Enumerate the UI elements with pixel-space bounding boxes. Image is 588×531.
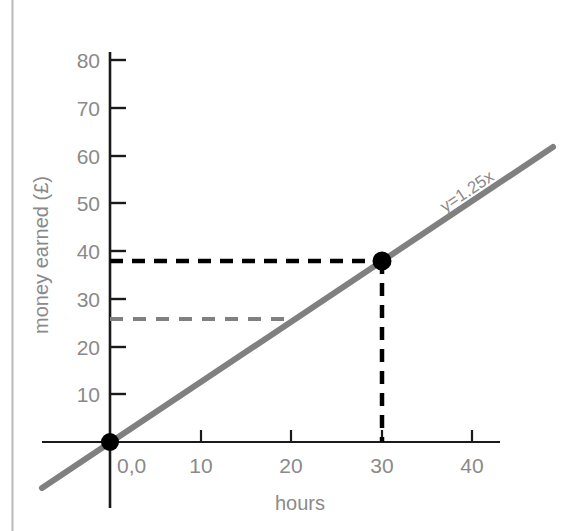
x-tick-label-40: 40: [460, 454, 483, 477]
y-tick-label-40: 40: [77, 240, 100, 263]
x-tick-label-20: 20: [279, 454, 302, 477]
x-axis-ticks: [201, 430, 472, 442]
reading-point-marker: [373, 252, 392, 271]
y-tick-label-20: 20: [77, 336, 100, 359]
y-axis-title: money earned (£): [30, 176, 52, 334]
x-axis-title: hours: [275, 492, 325, 514]
y-tick-label-70: 70: [77, 97, 100, 120]
y-tick-label-80: 80: [77, 49, 100, 72]
y-tick-label-60: 60: [77, 145, 100, 168]
chart-canvas: 80 70 60 50 40 30 20 10 10 20 30 40 0,0: [0, 0, 588, 531]
origin-label: 0,0: [117, 454, 146, 477]
y-axis-ticks: [110, 60, 126, 394]
x-axis-tick-labels: 10 20 30 40: [189, 454, 483, 477]
y-tick-label-10: 10: [77, 383, 100, 406]
x-tick-label-30: 30: [370, 454, 393, 477]
x-tick-label-10: 10: [189, 454, 212, 477]
y-tick-label-50: 50: [77, 192, 100, 215]
y-axis-tick-labels: 80 70 60 50 40 30 20 10: [77, 49, 100, 406]
line-chart-figure: 80 70 60 50 40 30 20 10 10 20 30 40 0,0: [0, 0, 588, 531]
origin-point-marker: [101, 433, 119, 451]
y-tick-label-30: 30: [77, 288, 100, 311]
